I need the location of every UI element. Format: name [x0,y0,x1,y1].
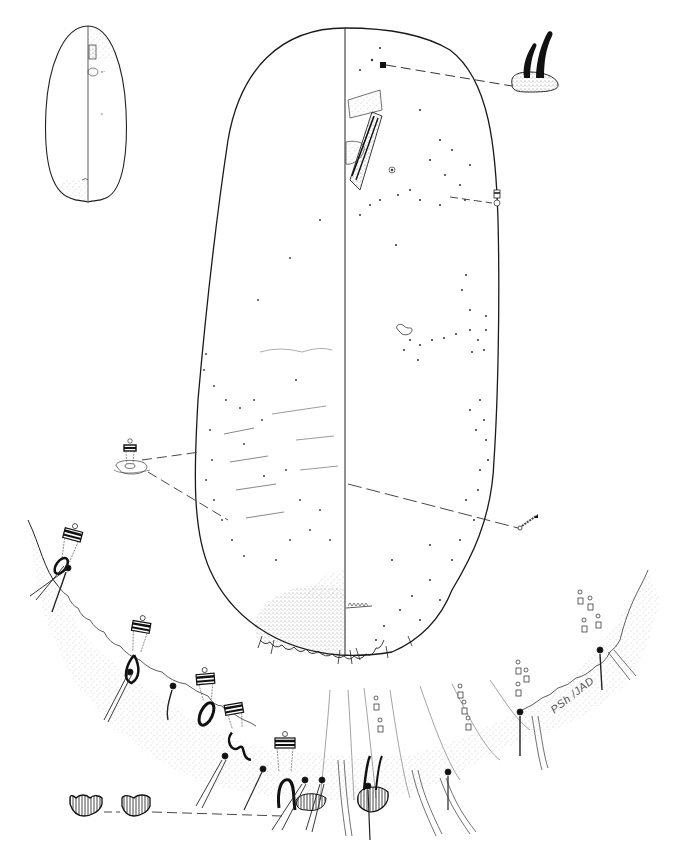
scale-insect-figure: c- e [0,0,674,849]
figure-caption-cutoff [62,838,482,849]
svg-text:c-: c- [101,69,105,74]
habitus-inset: c- e [46,26,127,202]
main-body-outline [195,28,498,664]
